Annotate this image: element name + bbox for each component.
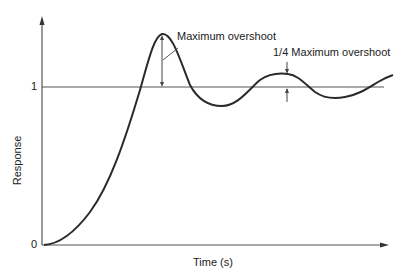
y-tick-one: 1 xyxy=(31,81,37,92)
response-curve xyxy=(44,34,393,245)
x-axis-label: Time (s) xyxy=(193,257,233,268)
y-axis-label: Response xyxy=(12,136,23,186)
quarter-overshoot-annotation: 1/4 Maximum overshoot xyxy=(273,47,390,58)
x-axis-arrow-icon xyxy=(380,243,389,248)
arrow-up-icon xyxy=(285,88,289,93)
arrow-down-icon xyxy=(160,82,164,87)
max-overshoot-leader xyxy=(163,48,178,60)
step-response-chart: 1 0 Response Time (s) Maximum overshoot … xyxy=(0,0,408,275)
max-overshoot-annotation: Maximum overshoot xyxy=(177,31,276,42)
y-tick-zero: 0 xyxy=(31,239,37,250)
y-axis-arrow-icon xyxy=(40,16,45,25)
